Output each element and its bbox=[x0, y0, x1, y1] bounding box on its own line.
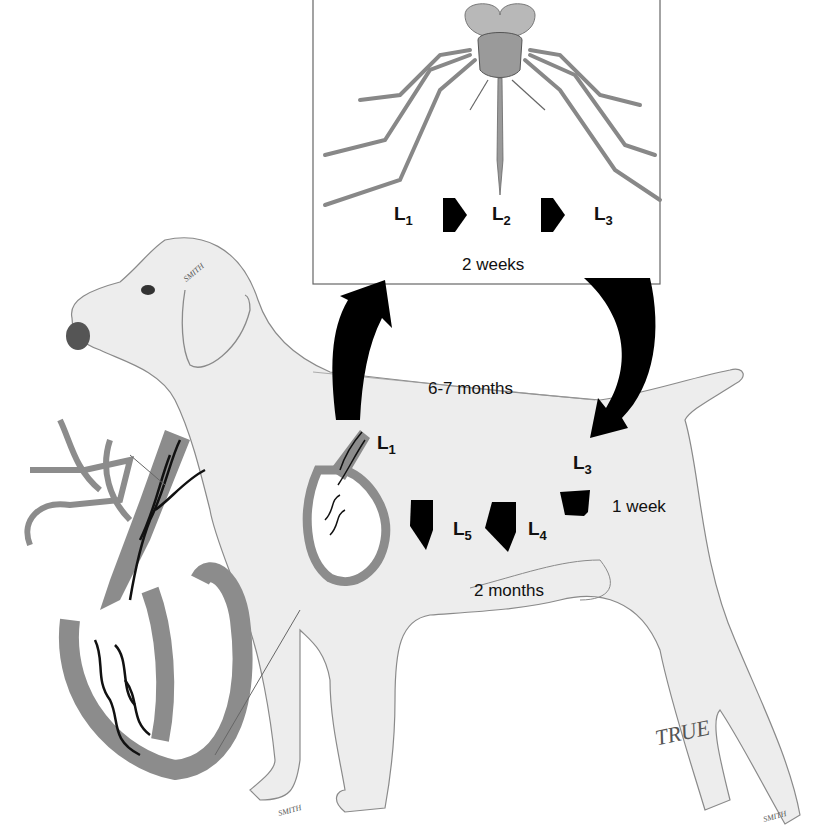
dog-stage-l5: L5 bbox=[453, 518, 472, 543]
l3-to-l4-duration-label: 1 week bbox=[612, 497, 666, 517]
heartworm-life-cycle-diagram: L1 L2 L3 2 weeks 6-7 months L1 L3 L4 L5 … bbox=[0, 0, 821, 826]
mosquito-duration-label: 2 weeks bbox=[462, 255, 524, 275]
mosquito-stage-l3: L3 bbox=[594, 203, 613, 228]
l4-to-l5-duration-label: 2 months bbox=[474, 581, 544, 601]
dog-stage-l1: L1 bbox=[377, 432, 396, 457]
diagram-illustration bbox=[0, 0, 821, 826]
dog-eye bbox=[141, 285, 155, 295]
prepatent-period-label: 6-7 months bbox=[428, 379, 513, 399]
arrow-l3-to-l4-icon bbox=[560, 490, 590, 516]
dog-stage-l3: L3 bbox=[573, 452, 592, 477]
mosquito-stage-l2: L2 bbox=[492, 203, 511, 228]
dog-nose bbox=[66, 322, 90, 350]
mosquito-stage-l1: L1 bbox=[394, 203, 413, 228]
dog-stage-l4: L4 bbox=[528, 518, 547, 543]
